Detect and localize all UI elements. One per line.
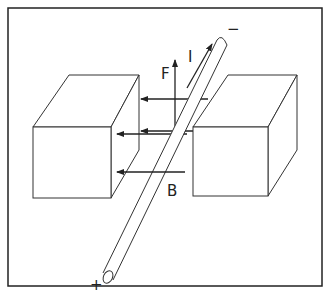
force-label: F [161, 65, 170, 83]
current-label: I [188, 48, 192, 66]
positive-terminal-label: + [90, 276, 103, 294]
magnetic-force-diagram: F I B + − [0, 0, 331, 296]
field-label: B [167, 182, 177, 200]
negative-terminal-label: − [227, 20, 240, 38]
left-magnet-block [33, 75, 139, 198]
right-magnet-block [193, 75, 297, 196]
